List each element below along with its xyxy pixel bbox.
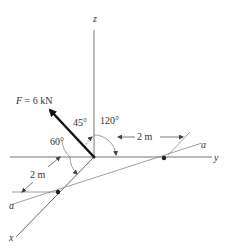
force-label: F = 6 kN — [15, 95, 52, 106]
angle-arc-alpha-down — [70, 157, 77, 174]
angle-label-alpha: 60° — [50, 136, 64, 147]
angle-label-beta: 45° — [73, 117, 87, 128]
point-on-x-axis — [56, 190, 60, 194]
point-on-y-axis — [162, 156, 166, 160]
diagram-canvas: z y x F = 6 kN 45° 120° 60° 2 m 2 m a a — [0, 0, 232, 252]
force-magnitude: = 6 kN — [22, 95, 52, 106]
dim-left-arrow-bottom — [22, 182, 33, 192]
force-diagram: z y x F = 6 kN 45° 120° 60° 2 m 2 m a a — [0, 0, 232, 252]
y-axis-label: y — [213, 152, 219, 163]
dim-extension-top — [168, 132, 190, 155]
line-label-a-lower: a — [9, 200, 14, 211]
dimension-label-left: 2 m — [30, 169, 46, 180]
dimension-label-top: 2 m — [137, 131, 153, 142]
angle-label-gamma: 120° — [100, 115, 119, 126]
force-vector — [50, 110, 94, 157]
origin-point — [93, 156, 96, 159]
angle-arc-gamma — [94, 135, 116, 155]
line-label-a-upper: a — [201, 139, 206, 150]
x-axis-label: x — [8, 232, 14, 243]
angle-arc-beta — [85, 137, 92, 148]
dim-left-arrow-top — [48, 157, 60, 167]
x-axis — [16, 157, 94, 237]
z-axis-label: z — [92, 13, 97, 24]
